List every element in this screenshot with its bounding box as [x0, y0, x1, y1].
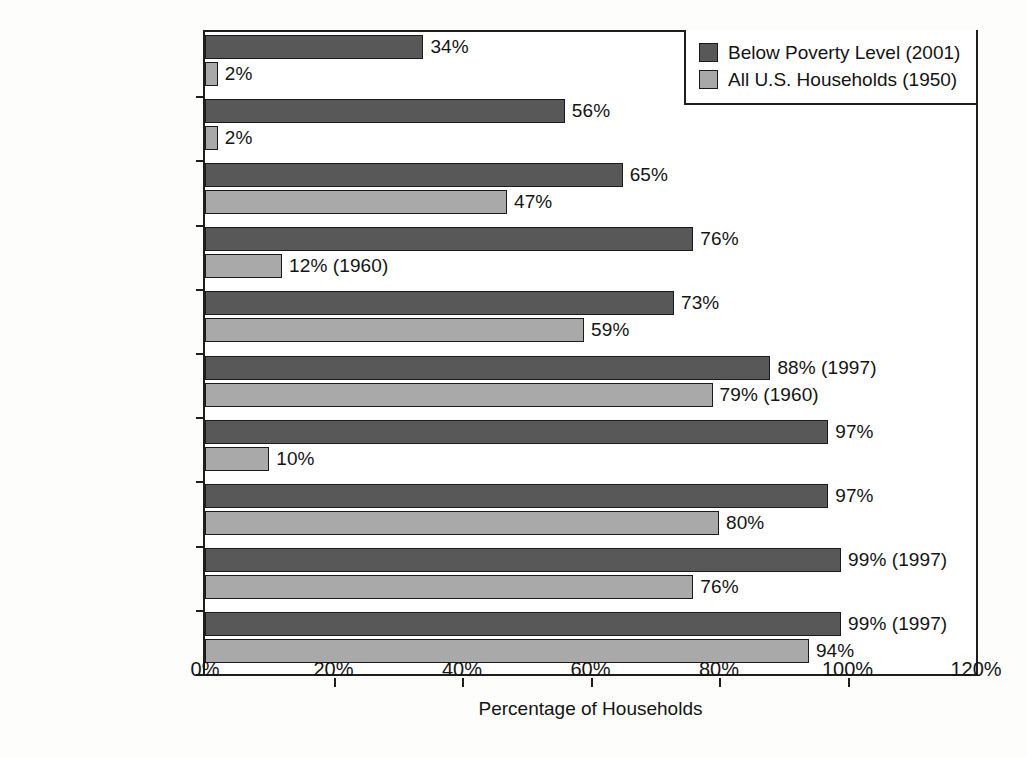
y-axis-tick	[196, 481, 205, 483]
y-axis-tick	[196, 417, 205, 419]
bar-value-label: 76%	[700, 576, 738, 598]
bar	[205, 62, 218, 86]
bar-value-label: 88% (1997)	[777, 357, 876, 379]
y-axis-tick	[196, 289, 205, 291]
bar	[205, 163, 623, 187]
bar-group-all-households: 59%	[205, 318, 976, 342]
y-axis-tick	[196, 96, 205, 98]
bar	[205, 575, 693, 599]
y-axis-tick	[196, 546, 205, 548]
bar-group-all-households: 10%	[205, 447, 976, 471]
bar-group-poverty: 97%	[205, 420, 976, 444]
bar	[205, 383, 713, 407]
bar	[205, 227, 693, 251]
y-axis-tick	[196, 610, 205, 612]
bar-group-all-households: 47%	[205, 190, 976, 214]
bar-value-label: 34%	[430, 36, 468, 58]
plot-area: 34%2%56%2%65%47%76%12% (1960)73%59%88% (…	[203, 30, 978, 676]
legend-swatch-icon	[699, 70, 718, 89]
legend-item-label: Below Poverty Level (2001)	[728, 42, 960, 64]
bar-value-label: 2%	[225, 127, 253, 149]
bar-group-poverty: 73%	[205, 291, 976, 315]
bar	[205, 356, 770, 380]
legend-item: All U.S. Households (1950)	[699, 66, 966, 93]
bar	[205, 291, 674, 315]
bar-group-all-households: 12% (1960)	[205, 254, 976, 278]
bar-group-all-households: 80%	[205, 511, 976, 535]
bar	[205, 99, 565, 123]
bar	[205, 126, 218, 150]
bar-value-label: 76%	[700, 228, 738, 250]
bar	[205, 612, 841, 636]
y-axis-tick	[196, 353, 205, 355]
x-axis-tick-label: 80%	[699, 658, 739, 681]
bar	[205, 420, 828, 444]
bar-chart-figure: 34%2%56%2%65%47%76%12% (1960)73%59%88% (…	[0, 0, 1027, 757]
bar-group-all-households: 76%	[205, 575, 976, 599]
bar-value-label: 12% (1960)	[289, 255, 388, 277]
bar-group-poverty: 97%	[205, 484, 976, 508]
bar-group-poverty: 76%	[205, 227, 976, 251]
legend-item-label: All U.S. Households (1950)	[728, 69, 957, 91]
legend-item: Below Poverty Level (2001)	[699, 39, 966, 66]
x-axis-tick-label: 0%	[191, 658, 220, 681]
bar-value-label: 10%	[276, 448, 314, 470]
bar-value-label: 80%	[726, 512, 764, 534]
bar-group-poverty: 99% (1997)	[205, 548, 976, 572]
y-axis-tick	[196, 225, 205, 227]
x-axis-tick-label: 60%	[570, 658, 610, 681]
bar-value-label: 97%	[835, 421, 873, 443]
legend-swatch-icon	[699, 43, 718, 62]
bar-value-label: 97%	[835, 485, 873, 507]
x-axis-tick-label: 120%	[950, 658, 1001, 681]
bar-group-all-households: 2%	[205, 126, 976, 150]
y-axis-tick	[196, 160, 205, 162]
bar-value-label: 56%	[572, 100, 610, 122]
bar-group-all-households: 79% (1960)	[205, 383, 976, 407]
x-axis-tick-label: 100%	[822, 658, 873, 681]
bar	[205, 318, 584, 342]
bar	[205, 190, 507, 214]
bar-group-poverty: 99% (1997)	[205, 612, 976, 636]
chart-legend: Below Poverty Level (2001) All U.S. Hous…	[684, 30, 978, 105]
bar-value-label: 79% (1960)	[720, 384, 819, 406]
bar-value-label: 99% (1997)	[848, 549, 947, 571]
bar-value-label: 73%	[681, 292, 719, 314]
bar	[205, 35, 423, 59]
bar	[205, 254, 282, 278]
bar	[205, 447, 269, 471]
bar	[205, 484, 828, 508]
bar	[205, 511, 719, 535]
bar-group-poverty: 88% (1997)	[205, 356, 976, 380]
bar	[205, 548, 841, 572]
bar-value-label: 65%	[630, 164, 668, 186]
bar-value-label: 47%	[514, 191, 552, 213]
bar-group-poverty: 65%	[205, 163, 976, 187]
x-axis-tick-label: 40%	[442, 658, 482, 681]
bar-value-label: 59%	[591, 319, 629, 341]
bar-value-label: 99% (1997)	[848, 613, 947, 635]
bar-value-label: 2%	[225, 63, 253, 85]
x-axis-title: Percentage of Households	[203, 698, 978, 720]
x-axis-tick-label: 20%	[313, 658, 353, 681]
